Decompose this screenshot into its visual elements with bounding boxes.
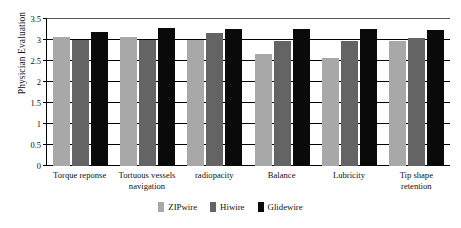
x-axis-category-label: Lubricity — [315, 170, 382, 192]
bar-group — [316, 19, 383, 166]
y-axis-tick-label: 3 — [37, 35, 41, 45]
legend-swatch-icon — [258, 202, 264, 212]
legend-swatch-icon — [210, 202, 216, 212]
x-axis-category-label: Tortuous vessels navigation — [113, 170, 180, 192]
y-axis-tick-label: 0 — [37, 161, 41, 171]
bar[interactable] — [274, 41, 291, 166]
bar[interactable] — [158, 28, 175, 166]
chart-legend: ZIPwireHiwireGlidewire — [0, 202, 461, 212]
bar[interactable] — [206, 33, 223, 166]
bar[interactable] — [187, 40, 204, 166]
y-axis-tick-label: 3.5 — [30, 14, 41, 24]
plot-area: 00.511.522.533.5 — [46, 18, 450, 166]
x-axis-category-labels: Torque reponseTortuous vessels navigatio… — [46, 170, 450, 192]
legend-swatch-icon — [158, 202, 164, 212]
bar-group — [181, 19, 248, 166]
bar[interactable] — [360, 29, 377, 166]
bar-group — [114, 19, 181, 166]
bar[interactable] — [389, 41, 406, 166]
bar[interactable] — [91, 32, 108, 166]
bar[interactable] — [255, 54, 272, 166]
bar-group — [383, 19, 450, 166]
legend-item[interactable]: ZIPwire — [158, 202, 197, 212]
y-axis-title: Physician Evaluation — [17, 0, 27, 123]
bar[interactable] — [53, 37, 70, 166]
bar[interactable] — [139, 40, 156, 166]
bars-layer — [47, 19, 450, 166]
bar[interactable] — [322, 58, 339, 166]
x-axis-category-label: Tip shape retention — [383, 170, 450, 192]
y-axis-tick-label: 2.5 — [30, 56, 41, 66]
bar-group — [249, 19, 316, 166]
bar[interactable] — [408, 38, 425, 166]
bar[interactable] — [427, 30, 444, 167]
legend-item[interactable]: Glidewire — [258, 202, 303, 212]
bar[interactable] — [120, 37, 137, 166]
bar[interactable] — [225, 29, 242, 166]
legend-label: ZIPwire — [168, 202, 197, 212]
legend-label: Hiwire — [220, 202, 244, 212]
y-axis-tick-label: 0.5 — [30, 140, 41, 150]
legend-label: Glidewire — [268, 202, 303, 212]
bar[interactable] — [341, 41, 358, 166]
y-axis-tick-label: 1.5 — [30, 98, 41, 108]
y-axis-tick-label: 2 — [37, 77, 41, 87]
x-axis-category-label: radiopacity — [181, 170, 248, 192]
bar[interactable] — [293, 29, 310, 166]
y-axis-tick-label: 1 — [37, 119, 41, 129]
bar-chart: Physician Evaluation 00.511.522.533.5 To… — [0, 0, 461, 228]
legend-item[interactable]: Hiwire — [210, 202, 244, 212]
bar-group — [47, 19, 114, 166]
bar[interactable] — [72, 40, 89, 166]
x-axis-category-label: Balance — [248, 170, 315, 192]
x-axis-category-label: Torque reponse — [46, 170, 113, 192]
